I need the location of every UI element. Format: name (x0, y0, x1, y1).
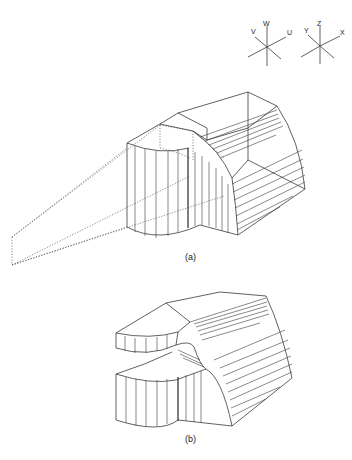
upper-sweep-lines (190, 298, 269, 340)
axis-label-u: U (287, 29, 292, 36)
figure-canvas (0, 0, 352, 460)
axis-label-w: W (263, 20, 270, 27)
lower-sweep-lines (214, 330, 292, 416)
panel-label-a: (a) (185, 252, 196, 262)
axis-label-z: Z (317, 20, 321, 27)
axis-label-v: V (251, 28, 256, 35)
figure-a-wireframe (12, 92, 305, 265)
axis-label-y: Y (304, 27, 309, 34)
panel-label-b: (b) (185, 434, 196, 444)
vertical-ruling-lines (135, 146, 228, 238)
figure-b-wireframe (116, 292, 292, 427)
axis-label-x: X (340, 29, 345, 36)
projection-lines (12, 125, 224, 265)
